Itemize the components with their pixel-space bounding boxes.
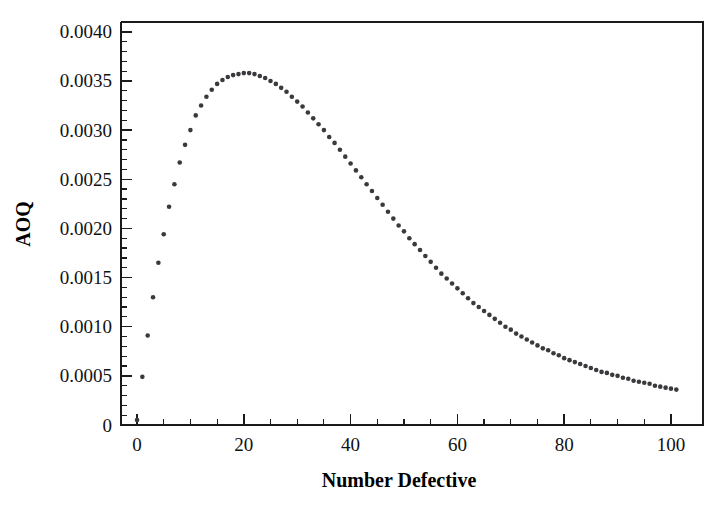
data-point bbox=[188, 128, 193, 133]
data-point bbox=[247, 71, 252, 76]
data-point bbox=[482, 309, 487, 314]
data-point bbox=[199, 103, 204, 108]
data-point bbox=[215, 82, 220, 87]
data-point bbox=[450, 281, 455, 286]
data-point bbox=[578, 362, 583, 367]
data-point bbox=[439, 271, 444, 276]
x-axis-title: Number Defective bbox=[322, 469, 477, 491]
data-point bbox=[508, 327, 513, 332]
x-tick-label: 100 bbox=[657, 434, 686, 455]
data-point bbox=[231, 73, 236, 78]
data-point bbox=[621, 376, 626, 381]
data-point bbox=[225, 75, 230, 80]
y-axis-title: AOQ bbox=[12, 201, 34, 247]
data-point bbox=[145, 333, 150, 338]
x-axis-tick-labels: 020406080100 bbox=[132, 434, 685, 455]
data-point bbox=[460, 291, 465, 296]
data-point bbox=[599, 370, 604, 375]
data-point bbox=[605, 371, 610, 376]
data-point bbox=[183, 143, 188, 148]
data-point bbox=[209, 88, 214, 93]
data-point bbox=[669, 386, 674, 391]
data-point bbox=[471, 301, 476, 306]
data-point-series bbox=[135, 71, 679, 423]
data-point bbox=[263, 76, 268, 81]
y-tick-label: 0.0020 bbox=[60, 218, 112, 239]
y-tick-label: 0.0040 bbox=[60, 21, 112, 42]
y-tick-label: 0.0005 bbox=[60, 365, 112, 386]
data-point bbox=[476, 305, 481, 310]
data-point bbox=[172, 182, 177, 187]
data-point bbox=[567, 358, 572, 363]
data-point bbox=[242, 71, 247, 76]
data-point bbox=[327, 135, 332, 140]
data-point bbox=[487, 313, 492, 318]
data-point bbox=[503, 324, 508, 329]
y-tick-label: 0.0030 bbox=[60, 120, 112, 141]
data-point bbox=[418, 248, 423, 253]
x-tick-label: 0 bbox=[132, 434, 142, 455]
y-tick-label: 0.0035 bbox=[60, 70, 112, 91]
data-point bbox=[135, 418, 140, 423]
data-point bbox=[610, 373, 615, 378]
data-point bbox=[386, 209, 391, 214]
data-point bbox=[498, 320, 503, 325]
data-point bbox=[647, 381, 652, 386]
data-point bbox=[370, 189, 375, 194]
data-point bbox=[562, 356, 567, 361]
data-point bbox=[583, 364, 588, 369]
data-point bbox=[193, 113, 198, 118]
data-point bbox=[274, 82, 279, 87]
data-point bbox=[466, 296, 471, 301]
data-point bbox=[140, 375, 145, 380]
data-point bbox=[396, 223, 401, 228]
data-point bbox=[343, 154, 348, 159]
data-point bbox=[407, 236, 412, 241]
data-point bbox=[359, 175, 364, 180]
data-point bbox=[252, 72, 257, 77]
data-point bbox=[316, 122, 321, 127]
data-point bbox=[530, 340, 535, 345]
data-point bbox=[573, 360, 578, 365]
data-point bbox=[557, 353, 562, 358]
data-point bbox=[525, 337, 530, 342]
data-point bbox=[589, 366, 594, 371]
data-point bbox=[380, 203, 385, 208]
data-point bbox=[658, 384, 663, 389]
data-point bbox=[156, 261, 161, 266]
x-tick-label: 40 bbox=[341, 434, 360, 455]
data-point bbox=[551, 351, 556, 356]
data-point bbox=[354, 168, 359, 173]
y-tick-label: 0.0010 bbox=[60, 316, 112, 337]
data-point bbox=[167, 204, 172, 209]
x-tick-label: 60 bbox=[448, 434, 467, 455]
data-point bbox=[631, 378, 636, 383]
data-point bbox=[492, 317, 497, 322]
x-axis-ticks bbox=[137, 414, 671, 425]
data-point bbox=[519, 334, 524, 339]
data-point bbox=[161, 232, 166, 237]
data-point bbox=[290, 94, 295, 99]
y-axis-ticks bbox=[121, 22, 132, 425]
data-point bbox=[364, 182, 369, 187]
data-point bbox=[204, 94, 209, 99]
data-point bbox=[653, 383, 658, 388]
data-point bbox=[236, 72, 241, 77]
data-point bbox=[412, 242, 417, 247]
data-point bbox=[434, 265, 439, 270]
x-tick-label: 20 bbox=[234, 434, 253, 455]
data-point bbox=[663, 385, 668, 390]
data-point bbox=[279, 86, 284, 91]
figure-canvas: 00.00050.00100.00150.00200.00250.00300.0… bbox=[0, 0, 728, 509]
data-point bbox=[615, 374, 620, 379]
data-point bbox=[402, 229, 407, 234]
y-tick-label: 0.0025 bbox=[60, 169, 112, 190]
data-point bbox=[642, 380, 647, 385]
data-point bbox=[177, 160, 182, 165]
data-point bbox=[300, 104, 305, 109]
axis-frame bbox=[121, 22, 703, 425]
data-point bbox=[541, 346, 546, 351]
data-point bbox=[338, 147, 343, 152]
y-axis-tick-labels: 00.00050.00100.00150.00200.00250.00300.0… bbox=[60, 21, 112, 435]
data-point bbox=[444, 276, 449, 281]
